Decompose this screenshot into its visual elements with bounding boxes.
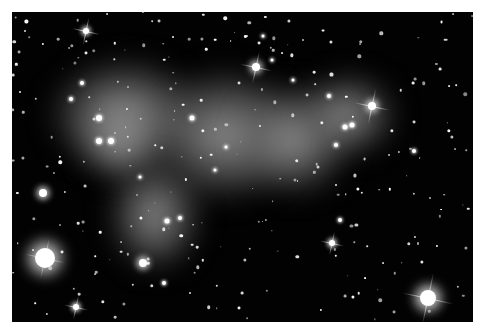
faint-star	[61, 250, 64, 253]
faint-star	[12, 159, 15, 162]
faint-star	[125, 126, 127, 128]
faint-star	[397, 151, 399, 153]
faint-star	[447, 122, 449, 124]
faint-star	[366, 245, 368, 247]
faint-star	[83, 184, 86, 187]
faint-star	[374, 319, 375, 320]
faint-star	[22, 111, 25, 114]
faint-star	[390, 129, 393, 132]
faint-star	[13, 272, 15, 274]
faint-star	[237, 306, 240, 309]
faint-star	[272, 49, 275, 52]
faint-star	[132, 284, 134, 286]
faint-star	[200, 37, 203, 40]
faint-star	[413, 193, 415, 195]
faint-star	[210, 153, 213, 156]
faint-star	[447, 129, 450, 132]
faint-star	[330, 73, 333, 76]
faint-star	[64, 190, 66, 192]
galaxy	[225, 146, 228, 149]
faint-star	[320, 309, 322, 311]
faint-star	[393, 311, 396, 314]
faint-star	[345, 194, 347, 196]
galaxy	[262, 35, 265, 38]
faint-star	[220, 246, 221, 247]
faint-star	[417, 37, 418, 38]
faint-star	[314, 83, 316, 85]
faint-star	[457, 285, 459, 287]
faint-star	[77, 222, 80, 225]
faint-star	[272, 201, 274, 203]
faint-star	[82, 220, 85, 223]
faint-star	[114, 316, 117, 319]
faint-star	[335, 184, 337, 186]
faint-star	[379, 32, 382, 35]
faint-star	[33, 249, 35, 251]
galaxy	[412, 149, 416, 153]
faint-star	[83, 231, 84, 232]
faint-star	[355, 223, 358, 226]
faint-star	[281, 52, 283, 54]
faint-star	[296, 255, 299, 258]
faint-star	[158, 20, 161, 23]
faint-star	[471, 15, 473, 17]
faint-star	[214, 38, 217, 41]
faint-star	[414, 78, 417, 81]
faint-star	[88, 97, 90, 99]
faint-star	[42, 43, 44, 45]
faint-star	[353, 174, 356, 177]
faint-star	[130, 225, 132, 227]
faint-star	[124, 49, 125, 50]
faint-star	[246, 35, 248, 37]
faint-star	[443, 194, 445, 196]
faint-star	[394, 272, 396, 274]
galaxy	[80, 81, 84, 85]
faint-star	[172, 36, 174, 38]
faint-star	[252, 188, 254, 190]
galaxy	[350, 123, 355, 128]
faint-star	[174, 111, 176, 113]
faint-star	[216, 308, 217, 309]
faint-star	[109, 259, 110, 260]
faint-star	[450, 136, 453, 139]
faint-star	[99, 231, 102, 234]
faint-star	[302, 39, 304, 41]
faint-star	[359, 43, 361, 45]
faint-star	[330, 41, 333, 44]
faint-star	[417, 242, 419, 244]
faint-star	[358, 55, 361, 58]
faint-star	[53, 172, 55, 174]
galaxy	[334, 143, 338, 147]
galaxy	[214, 169, 217, 172]
faint-star	[106, 13, 108, 15]
galaxy	[338, 218, 342, 222]
faint-star	[234, 32, 236, 34]
faint-star	[13, 40, 17, 44]
faint-star	[354, 242, 355, 243]
faint-star	[173, 72, 175, 74]
faint-star	[17, 243, 19, 245]
faint-star	[83, 161, 85, 163]
faint-star	[428, 310, 430, 312]
faint-star	[28, 37, 30, 39]
faint-star	[123, 302, 126, 305]
faint-star	[73, 61, 76, 64]
faint-star	[439, 68, 442, 71]
faint-star	[25, 20, 28, 23]
faint-star	[278, 250, 279, 251]
faint-star	[440, 209, 442, 211]
faint-star	[360, 191, 362, 193]
faint-star	[401, 262, 402, 263]
faint-star	[287, 44, 289, 46]
faint-star	[188, 38, 191, 41]
faint-star	[406, 175, 408, 177]
galaxy	[327, 94, 331, 98]
faint-star	[400, 89, 402, 91]
faint-star	[351, 296, 354, 299]
faint-star	[128, 149, 131, 152]
faint-star	[413, 121, 416, 124]
faint-star	[163, 43, 164, 44]
faint-star	[193, 224, 195, 226]
galaxy	[108, 138, 114, 144]
faint-star	[454, 148, 456, 150]
